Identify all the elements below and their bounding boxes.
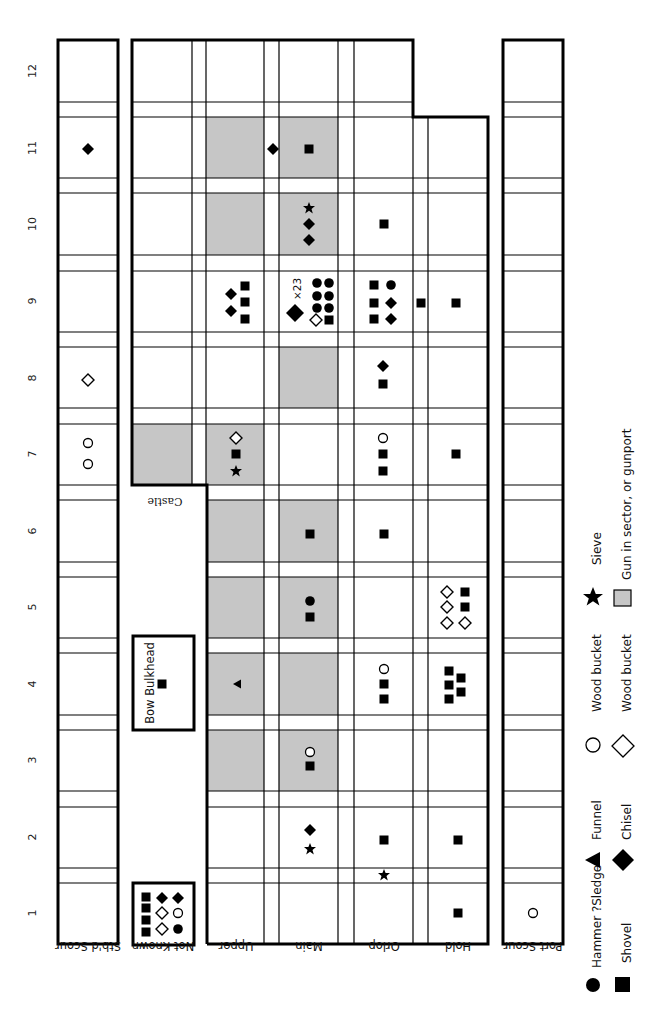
chisel-icon (267, 143, 279, 155)
shovel-icon (370, 315, 379, 324)
hammer-icon (312, 291, 322, 301)
finds-symbols: ×23 (82, 143, 538, 918)
label-not-known: Not Known (132, 939, 194, 953)
legend-label-shovel: Shovel (620, 923, 634, 963)
legend: Hammer ?Sledge Funnel Wood bucket Sieve … (583, 428, 634, 992)
shovel-icon (306, 613, 315, 622)
hammer-icon (305, 596, 315, 606)
stbd-scour-column: Stb'd Scour (55, 40, 121, 953)
shovel-icon (445, 695, 454, 704)
hammer-icon (173, 924, 183, 934)
hammer-icon (324, 303, 334, 313)
wood-bucket-diamond-icon (156, 923, 168, 935)
open-circle-icon (586, 738, 600, 752)
shovel-icon (142, 928, 151, 937)
wood-bucket-circle-icon (529, 909, 538, 918)
wood-bucket-diamond-icon (441, 586, 453, 598)
filled-square-icon (615, 977, 630, 992)
bow-bulkhead-box: Bow Bulkhead (133, 636, 194, 730)
filled-circle-icon (586, 978, 600, 992)
legend-label-hammer: Hammer ?Sledge (590, 865, 604, 968)
shovel-icon (241, 315, 250, 324)
shovel-icon (454, 909, 463, 918)
shovel-icon (142, 904, 151, 913)
label-upper: Upper (218, 939, 253, 953)
wood-bucket-circle-icon (380, 665, 389, 674)
wood-bucket-diamond-icon (82, 374, 94, 386)
wood-bucket-diamond-icon (156, 907, 168, 919)
shovel-icon (379, 380, 388, 389)
chisel-icon (385, 313, 397, 325)
wood-bucket-circle-icon (379, 434, 388, 443)
shovel-icon (305, 145, 314, 154)
row-number-1: 1 (26, 910, 39, 917)
wood-bucket-diamond-icon (459, 617, 471, 629)
label-orlop: Orlop (368, 939, 399, 953)
shovel-icon (445, 667, 454, 676)
shovel-icon (142, 893, 151, 902)
chisel-large-icon (286, 304, 304, 322)
sieve-icon (378, 869, 390, 881)
row-number-2: 2 (26, 834, 39, 841)
shovel-icon (380, 680, 389, 689)
row-number-8: 8 (26, 375, 39, 382)
legend-label-wood-bucket-diamond: Wood bucket (620, 634, 634, 712)
chisel-icon (225, 288, 237, 300)
shovel-icon (379, 450, 388, 459)
shovel-icon (380, 530, 389, 539)
hammer-icon (324, 278, 334, 288)
chisel-icon (156, 892, 168, 904)
shovel-icon (452, 299, 461, 308)
shovel-icon (454, 836, 463, 845)
shovel-icon (379, 467, 388, 476)
wood-bucket-diamond-icon (310, 314, 322, 326)
chisel-icon (172, 892, 184, 904)
row-number-3: 3 (26, 757, 39, 764)
chisel-icon (225, 305, 237, 317)
shovel-icon (370, 281, 379, 290)
open-diamond-icon (612, 735, 634, 757)
wood-bucket-diamond-icon (441, 617, 453, 629)
legend-label-wood-bucket-circle: Wood bucket (590, 634, 604, 712)
shovel-icon (306, 762, 315, 771)
wood-bucket-circle-icon (174, 909, 183, 918)
gray-square-icon (614, 590, 631, 606)
sieve-icon (304, 843, 316, 855)
label-castle: Castle (147, 495, 182, 508)
hammer-icon (312, 303, 322, 313)
row-number-12: 12 (26, 64, 39, 78)
chisel-icon (82, 143, 94, 155)
legend-label-sieve: Sieve (590, 532, 604, 565)
ship-finds-diagram: 12 11 10 9 8 7 6 5 4 3 2 1 (0, 0, 646, 1011)
hammer-icon (386, 280, 396, 290)
chisel-icon (385, 297, 397, 309)
shovel-icon (457, 674, 466, 683)
shovel-icon (370, 299, 379, 308)
filled-diamond-icon (612, 849, 634, 871)
chisel-icon (304, 824, 316, 836)
shovel-icon (461, 603, 470, 612)
row-number-10: 10 (26, 217, 39, 231)
shovel-icon (325, 316, 334, 325)
hammer-icon (324, 291, 334, 301)
shovel-icon (306, 530, 315, 539)
wood-bucket-circle-icon (84, 439, 93, 448)
legend-label-chisel: Chisel (620, 804, 634, 840)
label-port-scour: Port Scour (503, 939, 562, 953)
label-main: Main (295, 939, 322, 953)
shovel-icon (241, 282, 250, 291)
wood-bucket-diamond-icon (441, 601, 453, 613)
shovel-icon (380, 220, 389, 229)
row-numbers: 12 11 10 9 8 7 6 5 4 3 2 1 (26, 64, 39, 917)
shovel-icon (142, 916, 151, 925)
row-number-11: 11 (26, 141, 39, 155)
star-icon (583, 587, 603, 606)
wood-bucket-circle-icon (84, 460, 93, 469)
shovel-icon (445, 681, 454, 690)
shovel-icon (461, 588, 470, 597)
not-known-box: Not Known (132, 883, 194, 953)
wood-bucket-circle-icon (306, 748, 315, 757)
row-number-6: 6 (26, 528, 39, 535)
shovel-icon (380, 695, 389, 704)
port-scour-column: Port Scour (503, 40, 563, 953)
